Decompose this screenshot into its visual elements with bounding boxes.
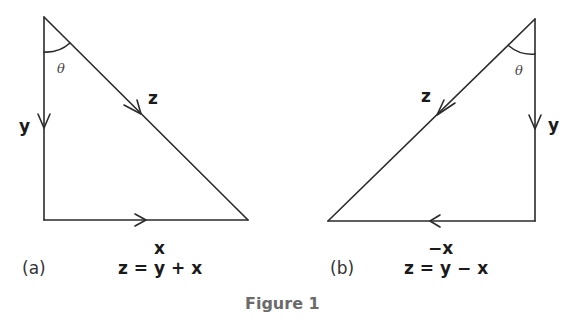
angle-arc-a <box>44 43 70 52</box>
vector-label-x-a: x <box>154 240 165 257</box>
vector-z-b <box>328 19 535 221</box>
vector-label-z-a: z <box>148 90 158 107</box>
vector-label-y-b: y <box>548 117 559 134</box>
vector-label-y-a: y <box>19 118 30 135</box>
vector-label-z-b: z <box>421 88 431 105</box>
panel-label-a: (a) <box>22 260 46 277</box>
figure-caption: Figure 1 <box>245 296 320 312</box>
vector-z-a <box>44 17 248 220</box>
arrowhead-diag-b <box>437 100 455 115</box>
panel-label-b: (b) <box>330 260 354 277</box>
equation-b: z = y − x <box>404 260 488 277</box>
triangle-b <box>328 19 541 227</box>
arrowhead-diag-a <box>124 100 141 114</box>
equation-a: z = y + x <box>118 260 202 277</box>
angle-label-a: θ <box>57 62 65 75</box>
angle-arc-b <box>509 46 535 54</box>
triangle-a <box>38 17 248 226</box>
angle-label-b: θ <box>515 64 523 77</box>
vector-label-negx-b: −x <box>428 240 453 257</box>
